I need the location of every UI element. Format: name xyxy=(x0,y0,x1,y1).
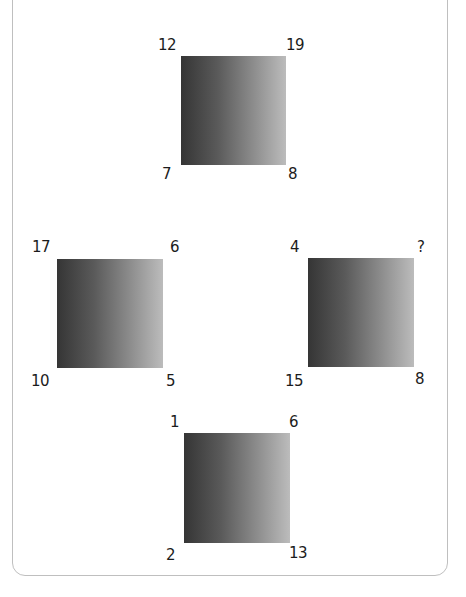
label-right-bottom-left: 15 xyxy=(285,374,303,389)
label-right-top-right-unknown: ? xyxy=(417,240,424,255)
label-bottom-bottom-left: 2 xyxy=(166,548,175,563)
label-left-bottom-left: 10 xyxy=(31,374,49,389)
label-right-bottom-right: 8 xyxy=(415,372,424,387)
square-right xyxy=(308,258,414,367)
label-bottom-top-left: 1 xyxy=(170,415,179,430)
label-top-bottom-right: 8 xyxy=(288,167,297,182)
label-top-top-right: 19 xyxy=(286,38,304,53)
label-left-bottom-right: 5 xyxy=(166,374,175,389)
label-left-top-left: 17 xyxy=(32,240,50,255)
label-top-top-left: 12 xyxy=(158,38,176,53)
label-top-bottom-left: 7 xyxy=(162,167,171,182)
label-bottom-top-right: 6 xyxy=(289,415,298,430)
label-left-top-right: 6 xyxy=(170,240,179,255)
square-top xyxy=(181,56,286,165)
square-left xyxy=(57,259,163,368)
label-bottom-bottom-right: 13 xyxy=(289,546,307,561)
square-bottom xyxy=(184,433,290,543)
label-right-top-left: 4 xyxy=(290,240,299,255)
